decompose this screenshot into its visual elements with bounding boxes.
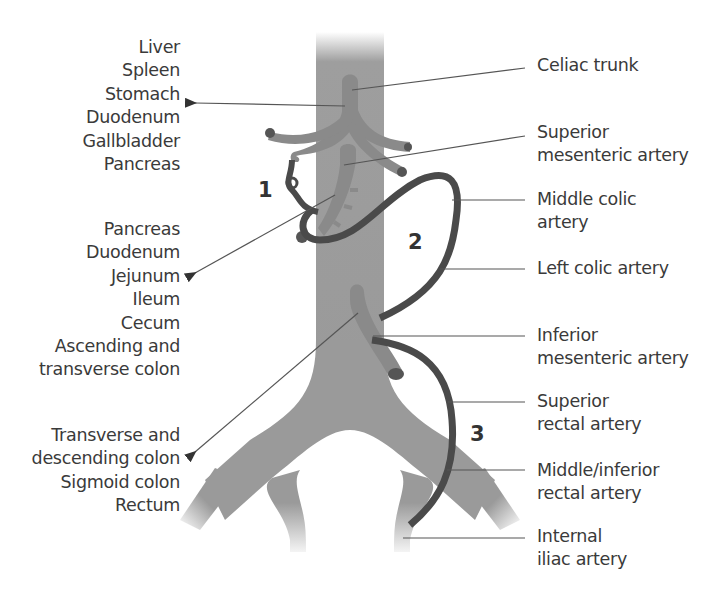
organ-label: Ileum <box>39 288 180 311</box>
label-superior-rectal-artery: Superior rectal artery <box>537 390 641 437</box>
organ-label: Stomach <box>82 83 180 106</box>
label-line: Superior <box>537 121 689 144</box>
label-line: rectal artery <box>537 413 641 436</box>
organ-label: Ascending and <box>39 335 180 358</box>
label-inferior-mesenteric-artery: Inferior mesenteric artery <box>537 324 689 371</box>
organ-label: Jejunum <box>39 265 180 288</box>
label-line: Middle/inferior <box>537 459 659 482</box>
anastomosis-number-2: 2 <box>408 230 423 254</box>
label-line: Inferior <box>537 324 689 347</box>
organ-label: descending colon <box>32 447 180 470</box>
organ-label: Transverse and <box>32 424 180 447</box>
leader-sma-organs <box>195 195 335 273</box>
sma-organs-list: Pancreas Duodenum Jejunum Ileum Cecum As… <box>39 218 180 382</box>
pancreaticoduodenal-arcade <box>288 160 318 212</box>
label-line: iliac artery <box>537 548 627 571</box>
ima-organs-list: Transverse and descending colon Sigmoid … <box>32 424 180 518</box>
label-celiac-trunk: Celiac trunk <box>537 54 638 77</box>
organ-label: Sigmoid colon <box>32 471 180 494</box>
label-left-colic-artery: Left colic artery <box>537 257 669 280</box>
organ-label: Duodenum <box>82 106 180 129</box>
organ-label: Liver <box>82 36 180 59</box>
label-line: mesenteric artery <box>537 347 689 370</box>
organ-label: Spleen <box>82 59 180 82</box>
anastomosis-number-3: 3 <box>470 422 485 446</box>
organ-label: transverse colon <box>39 358 180 381</box>
organ-label: Pancreas <box>82 153 180 176</box>
label-line: Internal <box>537 525 627 548</box>
label-line: Superior <box>537 390 641 413</box>
organ-label: Duodenum <box>39 241 180 264</box>
celiac-organs-list: Liver Spleen Stomach Duodenum Gallbladde… <box>82 36 180 176</box>
label-superior-mesenteric-artery: Superior mesenteric artery <box>537 121 689 168</box>
label-line: Left colic artery <box>537 257 669 280</box>
label-internal-iliac-artery: Internal iliac artery <box>537 525 627 572</box>
organ-label: Gallbladder <box>82 130 180 153</box>
anastomosis-number-1: 1 <box>258 178 273 202</box>
label-line: mesenteric artery <box>537 144 689 167</box>
label-middle-colic-artery: Middle colic artery <box>537 188 636 235</box>
label-line: Middle colic <box>537 188 636 211</box>
organ-label: Cecum <box>39 312 180 335</box>
label-line: rectal artery <box>537 482 659 505</box>
left-internal-iliac <box>267 470 306 552</box>
organ-label: Pancreas <box>39 218 180 241</box>
label-line: Celiac trunk <box>537 54 638 77</box>
label-middle-inferior-rectal-artery: Middle/inferior rectal artery <box>537 459 659 506</box>
organ-label: Rectum <box>32 494 180 517</box>
label-line: artery <box>537 211 636 234</box>
